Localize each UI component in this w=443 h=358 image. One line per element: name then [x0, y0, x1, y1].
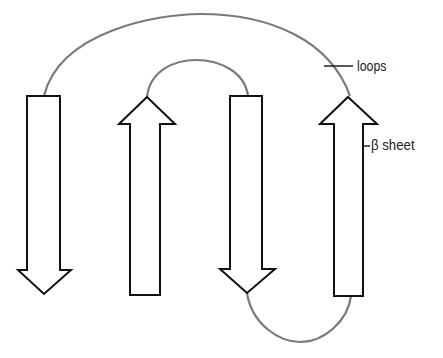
strand-arrow-up-2	[119, 97, 175, 295]
diagram-canvas	[0, 0, 443, 358]
loop-bottom	[247, 293, 351, 342]
loops-label: loops	[357, 58, 386, 74]
loop-large-top	[44, 14, 350, 96]
strand-arrow-up-4	[320, 97, 377, 296]
loop-small-top	[147, 60, 248, 97]
beta-sheet-diagram: loops β sheet	[0, 0, 443, 358]
beta-sheet-label: β sheet	[371, 136, 415, 153]
strand-arrow-down-3	[220, 96, 275, 293]
strand-arrow-down-1	[18, 96, 71, 294]
